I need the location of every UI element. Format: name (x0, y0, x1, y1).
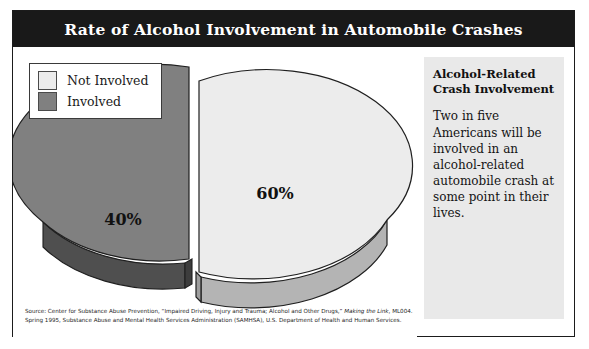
pie-label-involved: 40% (104, 210, 141, 229)
callout-heading: Alcohol-Related Crash Involvement (433, 67, 555, 97)
pie-label-not-involved: 60% (256, 184, 293, 203)
chart-frame: Rate of Alcohol Involvement in Automobil… (12, 10, 575, 337)
pie-slice-involved-cut-depth (185, 259, 192, 288)
title-banner: Rate of Alcohol Involvement in Automobil… (13, 11, 574, 47)
source-line-1-part-b: , ML004. (389, 308, 413, 314)
legend-item-not-involved: Not Involved (38, 70, 149, 91)
legend-label-involved: Involved (67, 94, 121, 109)
legend-swatch-not-involved (38, 71, 57, 90)
source-line-1-part-a: Source: Center for Substance Abuse Preve… (25, 308, 344, 314)
source-publication-title: Making the Link (344, 308, 388, 314)
source-line-2: Spring 1995, Substance Abuse and Mental … (25, 316, 410, 325)
chart-plot-area: 40% 60% Not Involved Involved (13, 47, 417, 338)
legend-item-involved: Involved (38, 91, 149, 112)
legend-label-not-involved: Not Involved (67, 73, 149, 88)
pie-slice-not-involved-cut-depth (196, 272, 201, 302)
legend-swatch-involved (38, 92, 57, 111)
callout-panel: Alcohol-Related Crash Involvement Two in… (424, 57, 564, 319)
page-title: Rate of Alcohol Involvement in Automobil… (64, 20, 522, 39)
source-footnote: Source: Center for Substance Abuse Preve… (25, 307, 410, 325)
callout-body: Two in five Americans will be involved i… (433, 108, 555, 221)
source-line-1: Source: Center for Substance Abuse Preve… (25, 307, 410, 316)
legend: Not Involved Involved (29, 63, 162, 119)
